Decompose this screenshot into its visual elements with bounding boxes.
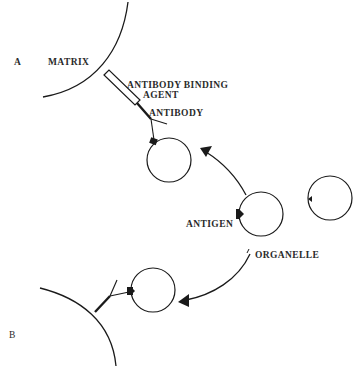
panel-label-b: B [9, 330, 16, 340]
organelle-label: ORGANELLE [255, 250, 319, 260]
panel-label-a: A [14, 57, 21, 67]
organelle-bound-b [131, 268, 175, 312]
antibody-label: ANTIBODY [149, 108, 203, 118]
figure-caption-cutoff [35, 366, 285, 374]
arrow-to-b [178, 254, 250, 307]
organelle-bound-a [147, 138, 191, 182]
matrix-label: MATRIX [48, 57, 89, 67]
organelle-free [308, 176, 352, 220]
matrix-b-surface [40, 288, 116, 366]
binding-agent-label-line1: ANTIBODY BINDING [127, 80, 228, 90]
antigen-label: ANTIGEN [186, 219, 233, 229]
antibody-b [95, 280, 135, 312]
arrow-to-a [200, 146, 246, 195]
organelle-with-antigen [236, 192, 283, 236]
antigen-marker [236, 209, 240, 219]
organelle-pointer [247, 249, 249, 253]
binding-agent-label-line2: AGENT [143, 90, 179, 100]
